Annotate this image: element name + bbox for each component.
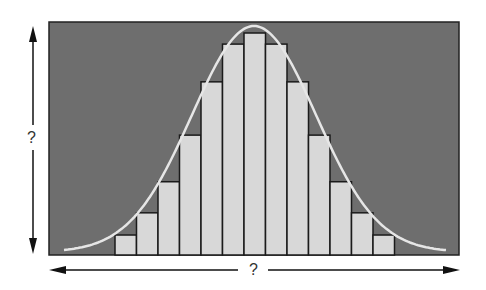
histogram-bar	[115, 235, 137, 255]
histogram-bar	[180, 135, 202, 255]
histogram-bar	[330, 182, 352, 255]
histogram-bar	[244, 33, 266, 255]
histogram-bar	[201, 82, 223, 255]
histogram-bar	[373, 235, 395, 255]
x-axis-label: ?	[249, 261, 258, 279]
histogram-diagram	[0, 0, 486, 290]
histogram-bar	[352, 213, 374, 255]
histogram-bar	[158, 182, 180, 255]
histogram-bar	[137, 213, 159, 255]
histogram-bar	[309, 135, 331, 255]
histogram-bar	[266, 44, 288, 255]
histogram-bar	[223, 44, 245, 255]
histogram-bar	[287, 82, 309, 255]
y-axis-label: ?	[27, 129, 36, 147]
